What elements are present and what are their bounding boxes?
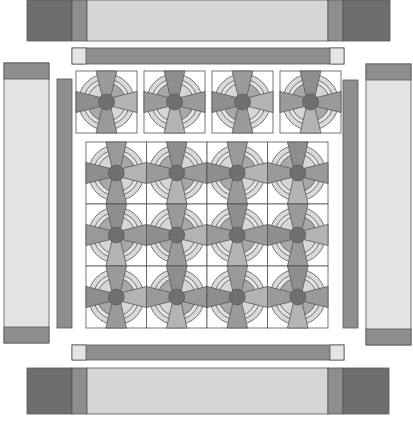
center-circle bbox=[235, 94, 251, 110]
center-circle bbox=[169, 165, 185, 181]
quilt-block bbox=[147, 142, 208, 204]
center-circle bbox=[229, 227, 245, 243]
quilt-block bbox=[268, 142, 329, 204]
quilt-block bbox=[268, 266, 329, 328]
left-sashing bbox=[57, 79, 72, 328]
quilt-block bbox=[280, 71, 341, 133]
center-circle bbox=[229, 289, 245, 305]
center-circle bbox=[229, 165, 245, 181]
quilt-block bbox=[207, 142, 268, 204]
quilt-block bbox=[207, 204, 268, 266]
top-border-segment bbox=[27, 0, 72, 41]
top-border-segment bbox=[343, 0, 390, 41]
top-sashing-end-right bbox=[330, 48, 344, 64]
bottom-sashing-end-right bbox=[330, 345, 344, 360]
right-border bbox=[366, 64, 411, 345]
quilt-block bbox=[144, 71, 205, 133]
top-border-segment bbox=[328, 0, 343, 41]
bottom-sashing-end-left bbox=[72, 345, 86, 360]
center-circle bbox=[290, 165, 306, 181]
quilt-block bbox=[76, 71, 137, 133]
left-border-cap-bottom bbox=[4, 327, 49, 343]
center-circle bbox=[108, 289, 124, 305]
center-circle bbox=[108, 165, 124, 181]
bottom-sashing bbox=[72, 345, 344, 360]
center-circle bbox=[290, 289, 306, 305]
right-border-cap-bottom bbox=[366, 329, 411, 345]
bottom-border-segment bbox=[343, 368, 389, 414]
quilt-block bbox=[207, 266, 268, 328]
bottom-border-segment bbox=[87, 368, 328, 414]
center-circle bbox=[167, 94, 183, 110]
top-sashing bbox=[72, 48, 344, 64]
center-circle bbox=[169, 227, 185, 243]
center-circle bbox=[290, 227, 306, 243]
top-border-segment bbox=[87, 0, 328, 41]
quilt-block bbox=[86, 266, 147, 328]
center-circle bbox=[303, 94, 319, 110]
quilt-block bbox=[147, 266, 208, 328]
left-border bbox=[4, 63, 49, 343]
left-border-cap-top bbox=[4, 63, 49, 79]
top-sashing-end-left bbox=[72, 48, 86, 64]
bottom-border-segment bbox=[27, 368, 72, 414]
right-border-cap-top bbox=[366, 64, 411, 80]
top-row-blocks bbox=[76, 71, 341, 133]
quilt-block bbox=[86, 142, 147, 204]
top-border-segment bbox=[72, 0, 87, 41]
quilt-block bbox=[212, 71, 273, 133]
quilt-block bbox=[86, 204, 147, 266]
quilt-block bbox=[268, 204, 329, 266]
center-circle bbox=[108, 227, 124, 243]
right-sashing bbox=[343, 80, 358, 328]
quilt-layout-diagram bbox=[0, 0, 413, 422]
bottom-border-segment bbox=[72, 368, 87, 414]
center-block-grid bbox=[86, 142, 328, 328]
quilt-block bbox=[147, 204, 208, 266]
center-circle bbox=[99, 94, 115, 110]
center-circle bbox=[169, 289, 185, 305]
bottom-border-segment bbox=[328, 368, 343, 414]
